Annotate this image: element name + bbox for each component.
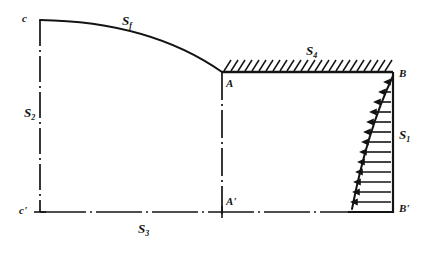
pressure-arrow (368, 120, 391, 125)
figure-canvas: c c' A A' B B' Sf S2 S3 S4 S1 (0, 0, 428, 254)
pressure-arrow (385, 80, 391, 85)
label-surface-left-subscript: 2 (31, 113, 35, 122)
label-surface-loaded-subscript: 1 (406, 135, 410, 144)
label-surface-hatched: S4 (306, 44, 317, 57)
diagram-svg (0, 0, 428, 254)
label-point-a: A (226, 78, 233, 89)
pressure-arrow (361, 150, 391, 155)
pressure-arrow (365, 130, 391, 135)
label-point-c-prime: c' (19, 205, 27, 216)
pressure-arrow (357, 170, 391, 175)
label-surface-hatched-subscript: 4 (313, 51, 317, 60)
label-point-c: c (22, 13, 27, 24)
pressure-arrow (380, 90, 391, 95)
hatching-ticks (224, 60, 392, 71)
label-surface-bottom-subscript: 3 (145, 229, 149, 238)
label-surface-bottom: S3 (138, 222, 149, 235)
pressure-arrow (355, 180, 391, 185)
label-surface-free: Sf (122, 14, 132, 27)
label-point-b: B (399, 68, 406, 79)
label-point-a-prime: A' (226, 196, 236, 207)
label-surface-left: S2 (24, 106, 35, 119)
label-point-b-prime: B' (399, 203, 409, 214)
label-surface-free-subscript: f (129, 21, 132, 30)
pressure-arrow (363, 140, 391, 145)
pressure-arrow (371, 110, 391, 115)
pressure-arrow (352, 200, 391, 205)
label-surface-loaded: S1 (399, 128, 410, 141)
pressure-arrow (354, 190, 391, 195)
pressure-arrow (359, 160, 391, 165)
